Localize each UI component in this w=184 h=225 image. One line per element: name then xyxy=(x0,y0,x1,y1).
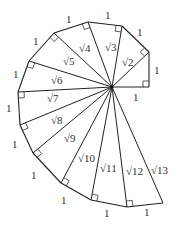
spoke-3 xyxy=(88,22,112,87)
spoke-7 xyxy=(20,87,112,125)
hypotenuse-label: √4 xyxy=(79,42,91,54)
right-angle-marker-1 xyxy=(143,81,149,87)
hypotenuse-label: √8 xyxy=(51,114,63,126)
unit-label: 1 xyxy=(31,169,37,181)
unit-label: 1 xyxy=(66,13,72,25)
spoke-10 xyxy=(91,87,112,200)
unit-edge-6 xyxy=(18,61,29,92)
unit-label: 1 xyxy=(144,206,150,218)
center-point xyxy=(110,85,113,88)
unit-label: 1 xyxy=(104,207,110,219)
unit-label: 1 xyxy=(12,138,18,150)
unit-label: 1 xyxy=(154,64,160,76)
right-angle-marker-7 xyxy=(18,92,24,98)
unit-edge-7 xyxy=(18,92,20,125)
right-angle-marker-2 xyxy=(140,48,144,56)
hypotenuse-label: √7 xyxy=(47,92,59,104)
hypotenuse-label: √11 xyxy=(100,162,117,174)
spiral-of-theodorus-diagram: √2√3√4√5√6√7√8√9√10√11√12√13 11111111111… xyxy=(0,0,184,225)
spoke-6 xyxy=(18,87,112,92)
unit-label: 1 xyxy=(61,194,67,206)
hypotenuse-label: √9 xyxy=(64,132,76,144)
unit-label: 1 xyxy=(13,68,19,80)
hypotenuse-label: √10 xyxy=(78,152,96,164)
unit-edge-11 xyxy=(91,200,127,207)
unit-label: 1 xyxy=(105,9,111,21)
unit-label: 1 xyxy=(137,26,143,38)
unit-edge-3 xyxy=(88,22,122,26)
hypotenuse-label: √3 xyxy=(105,41,117,53)
hypotenuse-label: √2 xyxy=(122,56,134,68)
right-angle-marker-5 xyxy=(50,37,58,41)
unit-label: 1 xyxy=(33,35,39,47)
hypotenuse-label: √13 xyxy=(151,164,169,176)
right-angle-marker-9 xyxy=(37,149,42,157)
hypotenuse-label: √12 xyxy=(126,165,143,177)
spoke-2 xyxy=(112,26,122,87)
unit-edge-2 xyxy=(122,26,149,52)
unit-label: 1 xyxy=(6,102,12,114)
hypotenuse-label: √6 xyxy=(51,74,63,86)
hypotenuse-label: √5 xyxy=(63,55,75,67)
unit-label: 1 xyxy=(133,91,139,103)
